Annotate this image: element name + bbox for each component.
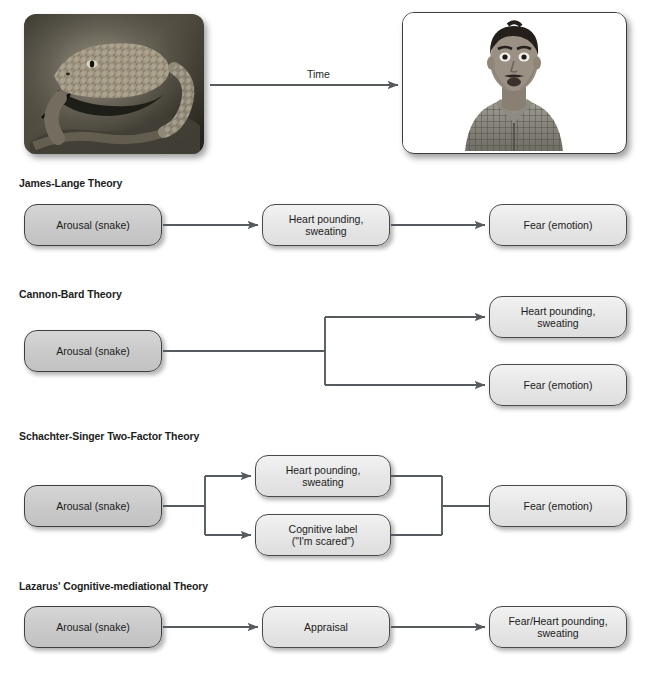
rattlesnake-photo-art	[24, 14, 204, 154]
node-label: Heart pounding, sweating	[517, 305, 600, 330]
node-label: Heart pounding, sweating	[282, 464, 365, 489]
startled-man-photo-art	[403, 13, 624, 151]
node-james-lange-arousal: Arousal (snake)	[24, 204, 162, 246]
node-lazarus-appraisal: Appraisal	[262, 606, 390, 648]
section-title-schachter-singer: Schachter-Singer Two-Factor Theory	[19, 430, 199, 442]
node-cannon-bard-arousal: Arousal (snake)	[24, 330, 162, 372]
node-label: Fear/Heart pounding, sweating	[504, 615, 611, 640]
rattlesnake-photo	[24, 14, 204, 154]
time-arrow-label: Time	[307, 68, 330, 80]
node-label: Cognitive label ("I'm scared")	[285, 523, 362, 548]
section-title-james-lange: James-Lange Theory	[19, 177, 122, 189]
section-title-cannon-bard: Cannon-Bard Theory	[19, 288, 122, 300]
node-label: Heart pounding, sweating	[285, 213, 368, 238]
node-label: Arousal (snake)	[52, 621, 134, 634]
node-label: Arousal (snake)	[52, 219, 134, 232]
node-label: Fear (emotion)	[520, 219, 597, 232]
node-cannon-bard-emotion: Fear (emotion)	[489, 364, 627, 406]
node-cannon-bard-bodily: Heart pounding, sweating	[489, 296, 627, 338]
node-schachter-arousal: Arousal (snake)	[24, 485, 162, 527]
node-schachter-cognitive: Cognitive label ("I'm scared")	[255, 514, 391, 556]
node-james-lange-emotion: Fear (emotion)	[489, 204, 627, 246]
node-label: Fear (emotion)	[520, 379, 597, 392]
node-label: Fear (emotion)	[520, 500, 597, 513]
node-schachter-bodily: Heart pounding, sweating	[255, 455, 391, 497]
node-schachter-emotion: Fear (emotion)	[489, 485, 627, 527]
node-lazarus-outcome: Fear/Heart pounding, sweating	[489, 606, 627, 648]
node-label: Arousal (snake)	[52, 500, 134, 513]
figure-canvas: Time James-Lange Theory Cannon-Bard Theo…	[0, 0, 653, 673]
node-label: Appraisal	[300, 621, 352, 634]
node-james-lange-bodily: Heart pounding, sweating	[262, 204, 390, 246]
section-title-lazarus: Lazarus' Cognitive-mediational Theory	[19, 580, 208, 592]
startled-man-photo	[402, 12, 627, 154]
node-lazarus-arousal: Arousal (snake)	[24, 606, 162, 648]
node-label: Arousal (snake)	[52, 345, 134, 358]
